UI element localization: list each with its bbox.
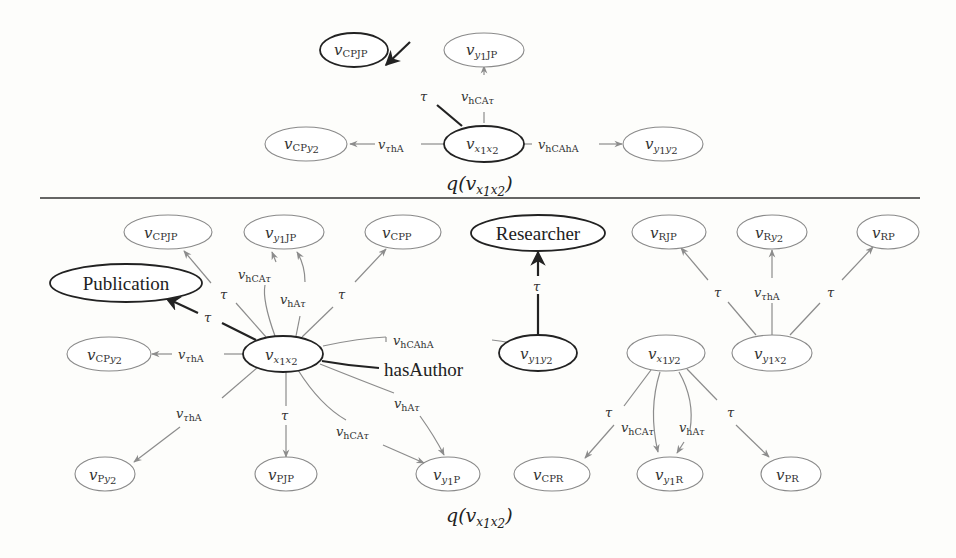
b-edge-label-hatau-y1p: vhAτ [394,396,420,413]
query-graph-diagram: τ vhCAτ vτhA vhCAhA vCPJP vy1JP vCPy2 vx… [0,0,956,558]
top-caption: q(vx1x2) [446,172,513,199]
b-edge-hatau-y1jp-tail [296,316,300,336]
node-publication-class: Publication [50,264,202,302]
b-edge-label-hatau-y1r: vhAτ [679,420,705,437]
b-edge-hcatau-y1jp-tail [264,285,275,336]
b-edge-tau-rjp-tail [728,302,756,335]
b-edge-hatau-y1r-head [677,442,684,453]
node-b-v-ry2: vRy2 [737,215,807,249]
node-b-v-cpy2: vCPy2 [67,337,151,371]
top-edge-label-tauha: vτhA [378,137,404,154]
b-edge-hcatau-y1r [653,372,660,452]
b-edge-tau-cpr-tail [624,370,651,406]
b-edge-label-tau-cpp: τ [338,287,346,302]
node-b-v-x1x2: vx1x2 [243,336,323,372]
b-edge-label-tau-pr: τ [727,405,735,420]
node-b-v-y1jp: vy1JP [244,215,324,249]
b-edge-hcatau-y1p-head [383,445,424,463]
b-edge-hatau-y1p-tail [320,364,394,393]
b-edge-label-hcatau-y1p: vhCAτ [336,424,370,441]
top-edge-tau-to-cpjp-tail [437,105,462,126]
b-edge-label-tau-publication: τ [204,310,212,325]
node-b-v-pjp: vPJP [255,457,317,491]
b-edge-label-tau-rp: τ [827,285,835,300]
b-edge-label-tau-cpjp: τ [220,287,228,302]
node-b-v-pr: vPR [761,457,821,491]
svg-text:Researcher: Researcher [496,223,581,244]
b-edge-to-cpp-tail [302,307,333,337]
b-edge-to-publication-tail [222,323,256,340]
node-b-v-y1p: vy1P [416,457,480,491]
node-b-v-y1y2: vy1y2 [499,335,577,371]
b-edge-tauha-py2-head [134,427,180,462]
b-edge-label-tauha-cpy2: vτhA [178,347,204,364]
b-edge-label-tau-pjp: τ [281,408,289,423]
b-edge-tau-rp-tail [790,303,820,335]
b-edge-label-tauha-py2: vτhA [176,406,202,423]
node-b-v-rjp: vRJP [632,215,706,249]
b-edge-label-hatau-y1jp: vhAτ [280,292,306,309]
b-edge-tau-pr-head [736,425,769,457]
b-edge-tau-rjp-head [681,248,708,280]
top-edge-label-hcatau: vhCAτ [461,89,495,106]
node-b-v-cpr: vCPR [514,457,590,491]
node-v-y1y2: vy1y2 [623,127,703,161]
bottom-caption: q(vx1x2) [446,504,513,531]
top-edge-label-tau: τ [420,89,428,104]
b-edge-tauha-py2-tail [222,367,258,398]
node-b-v-y1r: vy1R [637,457,703,491]
b-edge-hatau-y1jp-head [297,252,305,282]
b-edge-hcatau-y1p-tail [298,370,346,420]
node-b-v-y1x2: vy1x2 [732,335,812,371]
top-graph: τ vhCAτ vτhA vhCAhA vCPJP vy1JP vCPy2 vx… [265,33,703,199]
node-v-x1x2: vx1x2 [444,126,524,162]
b-edge-label-hasauthor: hasAuthor [384,359,464,380]
top-edge-label-hcaha: vhCAhA [538,137,579,154]
node-v-y1jp: vy1JP [444,33,524,67]
top-edge-tau-to-cpjp-head [386,42,410,65]
b-edge-label-hcatau-y1r: vhCAτ [621,420,655,437]
node-researcher-class: Researcher [471,215,605,251]
b-edge-label-hcaha: vhCAhA [393,333,434,350]
b-edge-label-tauha-ry2: vτhA [754,285,780,302]
node-b-v-cpp: vCPP [365,215,441,249]
node-b-v-rp: vRP [857,215,919,249]
b-edge-label-tau-cpr: τ [605,405,613,420]
bottom-graph: τ vhCAτ vhAτ τ τ vτhA vhCAhA hasAuthor [50,215,919,531]
b-edge-tau-pr-tail [687,369,717,400]
svg-text:Publication: Publication [83,273,170,294]
b-edge-hatau-y1p-head [420,416,444,455]
b-edge-hasauthor-tail [322,361,379,368]
b-edge-label-hcatau-y1jp: vhCAτ [238,267,272,284]
node-v-cpjp: vCPJP [320,33,388,67]
b-edge-tau-cpr-head [585,425,614,458]
b-edge-label-tau-rjp: τ [714,285,722,300]
node-v-cpy2: vCPy2 [265,127,347,161]
b-edge-to-publication-head [166,298,198,313]
node-b-v-cpjp: vCPJP [124,215,212,249]
b-edge-label-tau-researcher: τ [533,279,541,294]
b-edge-hcatau-y1jp-head [272,252,276,262]
b-edge-tau-rp-head [842,247,873,280]
node-b-v-py2: vPy2 [75,457,135,491]
b-edge-to-cpp-head [355,249,386,282]
b-edge-hcaha-tail [323,337,386,346]
node-b-v-x1y2: vx1y2 [627,335,705,371]
